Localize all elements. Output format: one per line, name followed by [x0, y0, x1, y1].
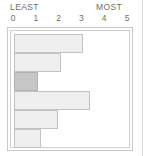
x-axis-tick-4: 4: [97, 13, 111, 24]
x-axis-tick-1: 1: [29, 13, 43, 24]
plot-frame-inner: [10, 30, 130, 148]
x-axis-tick-3: 3: [74, 13, 88, 24]
bar: [14, 91, 90, 110]
bar-row: [14, 91, 126, 110]
x-axis-tick-2: 2: [52, 13, 66, 24]
bar-row: [14, 34, 126, 53]
plot-area: [14, 34, 126, 144]
page-edge-rule: [142, 0, 143, 156]
bar-row: [14, 53, 126, 72]
plot-frame-outer: [7, 27, 133, 151]
bar-highlighted: [14, 72, 38, 91]
bar: [14, 53, 61, 72]
x-axis-tick-5: 5: [120, 13, 134, 24]
bar-row: [14, 110, 126, 129]
x-axis-tick-labels: 012345: [0, 13, 133, 25]
bar: [14, 34, 83, 53]
bar: [14, 129, 41, 148]
bar-row: [14, 129, 126, 148]
scale-label-most: MOST: [96, 2, 122, 13]
bar-chart-figure: LEAST MOST 012345: [0, 0, 143, 156]
bar: [14, 110, 58, 129]
scale-label-least: LEAST: [10, 2, 39, 13]
x-axis-tick-0: 0: [6, 13, 20, 24]
bar-row: [14, 72, 126, 91]
